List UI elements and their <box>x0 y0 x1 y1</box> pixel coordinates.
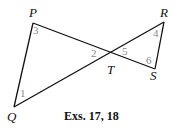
point-label-T: T <box>107 62 115 77</box>
figure-caption: Exs. 17, 18 <box>64 109 119 123</box>
point-label-S: S <box>150 68 157 83</box>
point-label-Q: Q <box>7 109 17 124</box>
angle-label-4: 4 <box>153 27 159 39</box>
angle-label-2: 2 <box>91 47 97 59</box>
angle-label-1: 1 <box>20 87 26 99</box>
angle-label-3: 3 <box>33 24 39 36</box>
point-label-R: R <box>159 5 168 20</box>
angle-label-6: 6 <box>146 54 152 66</box>
geometry-figure: P Q T R S 1 2 3 4 5 6 Exs. 17, 18 <box>0 0 175 131</box>
point-label-P: P <box>28 5 37 20</box>
angle-label-5: 5 <box>122 45 128 57</box>
